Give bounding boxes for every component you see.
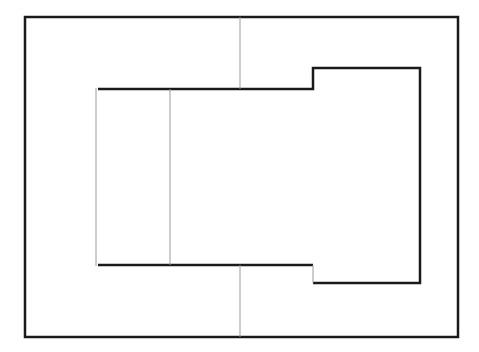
thin-lines [96,17,313,337]
outer-boundary [25,17,458,337]
floor-plan-diagram [0,0,479,352]
inner-boundary [98,68,420,283]
